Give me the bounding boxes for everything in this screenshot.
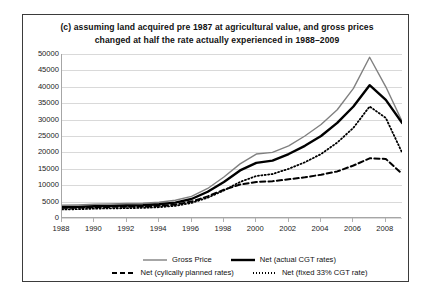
y-axis-tick-label: 25000 <box>13 131 59 140</box>
y-axis-tick-label: 20000 <box>13 148 59 157</box>
series-line <box>62 158 402 208</box>
legend-label-net-cyclical: Net (cylically planned rates) <box>141 268 234 277</box>
legend-row-top: Gross Price Net (actual CGT rates) <box>53 255 425 264</box>
plot-wrapper: 0500010000150002000025000300003500040000… <box>61 54 401 218</box>
plot-area <box>61 54 401 218</box>
x-axis-tick <box>158 218 159 222</box>
y-axis-tick-label: 15000 <box>13 164 59 173</box>
legend-item-gross-price[interactable]: Gross Price <box>142 255 212 264</box>
legend-item-net-actual[interactable]: Net (actual CGT rates) <box>230 255 336 264</box>
x-axis-tick <box>223 218 224 222</box>
legend-item-net-fixed33[interactable]: Net (fixed 33% CGT rate) <box>252 268 368 277</box>
x-axis-tick <box>385 218 386 222</box>
legend-label-net-actual: Net (actual CGT rates) <box>260 255 336 264</box>
x-axis-tick <box>191 218 192 222</box>
legend-swatch-solid-gray-icon <box>142 256 168 264</box>
y-axis-tick-label: 30000 <box>13 115 59 124</box>
gridline <box>62 218 402 219</box>
y-axis-tick-label: 50000 <box>13 49 59 58</box>
x-axis-tick <box>352 218 353 222</box>
x-axis-tick <box>288 218 289 222</box>
x-axis-tick <box>320 218 321 222</box>
y-axis-tick-label: 35000 <box>13 99 59 108</box>
x-axis-tick <box>126 218 127 222</box>
legend-item-net-cyclical[interactable]: Net (cylically planned rates) <box>111 268 234 277</box>
chart-frame: (c) assuming land acquired pre 1987 at a… <box>22 14 409 282</box>
legend-swatch-dashed-icon <box>111 269 137 277</box>
x-axis-tick <box>93 218 94 222</box>
series-line <box>62 57 402 205</box>
series-line <box>62 85 402 207</box>
chart-title: (c) assuming land acquired pre 1987 at a… <box>49 21 385 46</box>
y-axis-tick-label: 10000 <box>13 181 59 190</box>
y-axis-tick-label: 45000 <box>13 66 59 75</box>
legend-row-bottom: Net (cylically planned rates) Net (fixed… <box>53 268 425 277</box>
x-axis-tick <box>255 218 256 222</box>
chart-legend: Gross Price Net (actual CGT rates) Net (… <box>53 255 425 281</box>
legend-label-gross-price: Gross Price <box>172 255 212 264</box>
legend-label-net-fixed33: Net (fixed 33% CGT rate) <box>282 268 368 277</box>
y-axis-tick-label: 0 <box>13 213 59 222</box>
legend-swatch-dotted-icon <box>252 269 278 277</box>
y-axis-tick-label: 40000 <box>13 82 59 91</box>
y-axis-tick-label: 5000 <box>13 197 59 206</box>
legend-swatch-solid-black-icon <box>230 256 256 264</box>
x-axis-tick-label: 2008 <box>365 224 405 233</box>
series-line <box>62 106 402 209</box>
series-layer <box>62 54 402 218</box>
x-axis-tick <box>61 218 62 222</box>
